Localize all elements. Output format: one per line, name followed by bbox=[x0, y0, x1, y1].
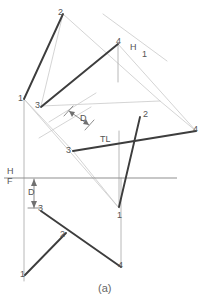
projector-lines bbox=[24, 44, 121, 281]
label-fold-hf-h: H bbox=[7, 167, 14, 176]
aux-d-arrowhead-start bbox=[69, 111, 75, 117]
label-aux-point-3: 3 bbox=[66, 146, 71, 155]
label-true-length: TL bbox=[100, 135, 111, 144]
label-dimension-d-aux: D bbox=[80, 114, 87, 123]
label-aux-point-2: 2 bbox=[143, 110, 148, 119]
label-front-point-1-left: 1 bbox=[20, 270, 25, 279]
top-view-4-to-aux-4 bbox=[118, 44, 196, 131]
label-fold-h1-h: H bbox=[130, 43, 137, 52]
aux-long-ray-3 bbox=[73, 151, 119, 208]
top-view-line-3-4 bbox=[41, 44, 118, 107]
aux-frame-right-edge bbox=[160, 101, 196, 131]
aux-fold-line-h1 bbox=[103, 14, 167, 61]
label-top-point-4: 4 bbox=[116, 37, 121, 46]
drawing-canvas bbox=[0, 0, 211, 301]
object-lines bbox=[24, 14, 196, 275]
label-fold-h1-1: 1 bbox=[142, 50, 147, 59]
figure-caption: (a) bbox=[98, 283, 111, 294]
front-view-line-3-4 bbox=[41, 211, 121, 267]
descriptive-geometry-figure: 2 4 H 1 1 3 D 2 TL 4 3 H F D 3 1 2 4 1 (… bbox=[0, 0, 211, 301]
front-view-line-1-2 bbox=[25, 233, 66, 275]
label-top-point-2: 2 bbox=[58, 8, 63, 17]
label-front-point-3: 3 bbox=[38, 204, 43, 213]
front-d-arrowhead-bottom bbox=[31, 201, 37, 208]
aux-frame-3-upper bbox=[41, 101, 160, 106]
label-top-point-1: 1 bbox=[18, 94, 23, 103]
front-d-arrowhead-top bbox=[31, 179, 37, 186]
label-front-point-1: 1 bbox=[117, 211, 122, 220]
aux-frame-1-3 bbox=[24, 99, 73, 151]
top-view-line-1-2 bbox=[24, 14, 63, 99]
aux-view-line-2-1 bbox=[119, 117, 140, 207]
label-dimension-d-front: D bbox=[28, 188, 35, 197]
label-aux-point-4: 4 bbox=[193, 125, 198, 134]
label-fold-hf-f: F bbox=[7, 177, 13, 186]
label-front-point-4: 4 bbox=[118, 261, 123, 270]
label-front-point-2: 2 bbox=[60, 230, 65, 239]
label-top-point-3: 3 bbox=[35, 101, 40, 110]
